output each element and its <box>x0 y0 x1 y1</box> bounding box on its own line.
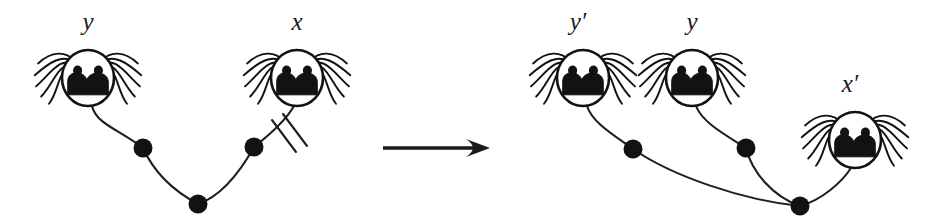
graph-edge-edge-y-r2[interactable] <box>696 106 746 148</box>
before-graph: yx <box>35 8 351 214</box>
vertex-face-face-y-left[interactable] <box>35 50 142 106</box>
figure-container: yxy′yx′ <box>0 0 943 223</box>
vertex-label-face-y-right: y <box>683 8 698 35</box>
transformation-arrow <box>383 139 490 157</box>
vertex-label-face-y-left: y <box>79 8 94 35</box>
graph-node-node-l1[interactable] <box>134 139 153 158</box>
graph-edge-edge-l2-l3[interactable] <box>198 147 254 204</box>
vertex-label-face-x-left: x <box>290 8 302 35</box>
graph-node-node-l3[interactable] <box>245 138 264 157</box>
graph-node-node-r1[interactable] <box>624 140 643 159</box>
graph-transformation-figure: yxy′yx′ <box>0 0 943 223</box>
graph-edge-edge-r1-r3[interactable] <box>633 149 800 206</box>
graph-edge-edge-l1-l2[interactable] <box>143 148 198 204</box>
graph-node-node-l2[interactable] <box>189 195 208 214</box>
graph-node-node-r2[interactable] <box>737 139 756 158</box>
vertex-label-face-yprime: y′ <box>567 8 587 35</box>
vertex-face-face-yprime[interactable] <box>530 50 637 106</box>
vertex-label-face-xprime: x′ <box>841 70 859 97</box>
vertex-face-face-xprime[interactable] <box>802 112 909 168</box>
after-graph: y′yx′ <box>530 8 909 216</box>
graph-edge-edge-r3-xprime[interactable] <box>800 168 851 206</box>
vertex-face-face-x-left[interactable] <box>244 50 351 106</box>
graph-node-node-r3[interactable] <box>791 197 810 216</box>
graph-edge-edge-y-l1[interactable] <box>92 106 143 148</box>
vertex-face-face-y-right[interactable] <box>639 50 746 106</box>
